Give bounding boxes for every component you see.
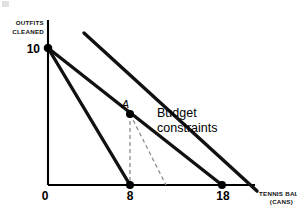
y-axis-label-line1: OUTFITS xyxy=(16,19,44,26)
x-axis-label-line2: (CANS) xyxy=(270,198,293,205)
budget-constraints-label-line2: constraints xyxy=(157,121,217,135)
scan-artifact xyxy=(2,1,9,7)
point-a-label: A xyxy=(121,98,129,110)
tick-label-origin: 0 xyxy=(42,189,49,203)
tick-label-x-18: 18 xyxy=(216,189,230,203)
marker-x-18 xyxy=(218,181,226,189)
x-axis-label-line1: TENNIS BALLS xyxy=(259,190,297,197)
marker-y-intercept-10 xyxy=(44,44,53,53)
budget-constraint-chart: OUTFITS CLEANED TENNIS BALLS (CANS) 10 0… xyxy=(0,0,297,209)
budget-line-steep xyxy=(48,48,130,185)
tick-label-y-10: 10 xyxy=(27,42,41,56)
tick-label-x-8: 8 xyxy=(127,189,134,203)
budget-constraint-figure: OUTFITS CLEANED TENNIS BALLS (CANS) 10 0… xyxy=(0,0,297,209)
y-axis-label-line2: CLEANED xyxy=(12,28,44,35)
marker-point-a xyxy=(126,110,134,118)
budget-constraints-label-line1: Budget xyxy=(157,106,197,120)
marker-x-8 xyxy=(126,181,134,189)
